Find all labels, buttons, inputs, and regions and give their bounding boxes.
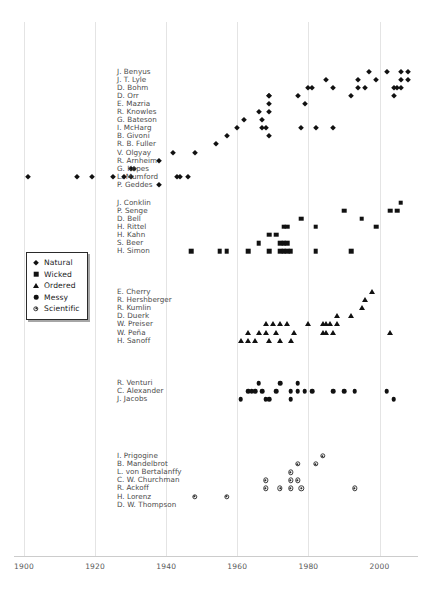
data-point [359, 216, 364, 221]
data-point [238, 338, 244, 343]
x-tick-label-1940: 1940 [146, 562, 186, 571]
data-point [263, 125, 269, 131]
data-point [256, 330, 262, 335]
data-point [260, 389, 265, 394]
data-point [288, 397, 293, 402]
data-point [399, 200, 404, 205]
data-point [224, 249, 229, 254]
data-point [192, 494, 197, 499]
data-point [362, 297, 368, 302]
data-point [299, 486, 304, 491]
data-point [213, 141, 219, 147]
diamond-icon [32, 257, 40, 268]
data-point [88, 174, 94, 180]
gridline-2000 [380, 22, 381, 556]
data-point [266, 109, 272, 115]
data-point [303, 389, 308, 394]
data-point [352, 389, 357, 394]
legend-entry-ordered[interactable]: Ordered [32, 280, 80, 292]
data-point [320, 453, 325, 458]
square-icon [32, 269, 40, 280]
data-point [266, 338, 272, 343]
data-point [348, 93, 354, 99]
data-point [384, 389, 389, 394]
data-point [384, 68, 390, 74]
x-tick-label-1980: 1980 [288, 562, 328, 571]
data-point [267, 233, 272, 238]
data-point [366, 68, 372, 74]
legend-label: Natural [44, 258, 73, 267]
data-point [110, 174, 116, 180]
data-point [184, 174, 190, 180]
data-point [288, 469, 293, 474]
data-point [266, 101, 272, 107]
data-point [323, 330, 329, 335]
row-label: J. Jacobs [117, 395, 147, 403]
triangle-icon [32, 280, 40, 291]
data-point [288, 486, 293, 491]
data-point [241, 117, 247, 123]
legend-label: Ordered [44, 281, 76, 290]
data-point [291, 330, 297, 335]
row-label: H. Simon [117, 247, 150, 255]
data-point [277, 338, 283, 343]
gridline-1960 [237, 22, 238, 556]
data-point [256, 381, 261, 386]
data-point [224, 133, 230, 139]
data-point [330, 330, 336, 335]
data-point [374, 225, 379, 230]
data-point [342, 208, 347, 213]
data-point [295, 478, 300, 483]
data-point [295, 93, 301, 99]
data-point [373, 76, 379, 82]
data-point [263, 486, 268, 491]
data-point [284, 321, 290, 326]
data-point [273, 330, 279, 335]
data-point [256, 241, 261, 246]
data-point [355, 76, 361, 82]
legend-entry-wicked[interactable]: Wicked [32, 269, 80, 281]
data-point [277, 321, 283, 326]
data-point [274, 389, 279, 394]
data-point [302, 101, 308, 107]
data-point [74, 174, 80, 180]
x-tick-label-1900: 1900 [4, 562, 44, 571]
data-point [312, 125, 318, 131]
data-point [330, 85, 336, 91]
data-point [288, 478, 293, 483]
data-point [334, 313, 340, 318]
data-point [277, 486, 282, 491]
legend-entry-messy[interactable]: Messy [32, 292, 80, 304]
row-label: H. Sanoff [117, 337, 150, 345]
data-point [398, 68, 404, 74]
legend-entries: NaturalWickedOrderedMessyScientific [32, 257, 80, 315]
data-point [331, 389, 336, 394]
legend-label: Wicked [44, 270, 72, 279]
data-point [355, 85, 361, 91]
data-point [305, 321, 311, 326]
data-point [298, 125, 304, 131]
data-point [245, 338, 251, 343]
legend-entry-scientific[interactable]: Scientific [32, 303, 80, 315]
data-point [252, 338, 258, 343]
legend-entry-natural[interactable]: Natural [32, 257, 80, 269]
data-point [352, 486, 357, 491]
data-point [362, 85, 368, 91]
legend-label: Scientific [44, 304, 80, 313]
data-point [330, 125, 336, 131]
gridline-1980 [308, 22, 309, 556]
x-tick-label-2000: 2000 [360, 562, 400, 571]
data-point [398, 85, 404, 91]
data-point [259, 117, 265, 123]
data-point [398, 76, 404, 82]
data-point [313, 461, 318, 466]
data-point [349, 249, 354, 254]
data-point [224, 494, 229, 499]
data-point [278, 381, 283, 386]
data-point [323, 76, 329, 82]
data-point [170, 149, 176, 155]
data-point [295, 389, 300, 394]
data-point [288, 389, 293, 394]
data-point [156, 182, 162, 188]
data-point [295, 461, 300, 466]
